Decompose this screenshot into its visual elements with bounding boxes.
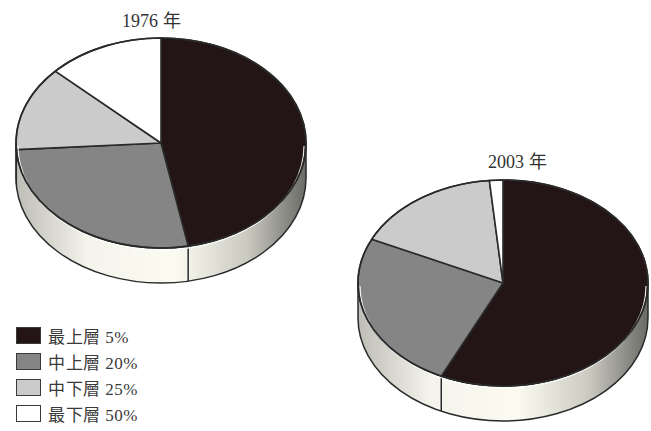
pie-2003	[358, 180, 648, 421]
legend-item-bottom: 最下層 50%	[16, 400, 138, 426]
legend-item-top: 最上層 5%	[16, 322, 138, 348]
legend: 最上層 5% 中上層 20% 中下層 25% 最下層 50%	[16, 322, 138, 426]
legend-swatch-top	[16, 327, 41, 344]
legend-item-upper-middle: 中上層 20%	[16, 348, 138, 374]
legend-label: 最下層 50%	[48, 401, 138, 426]
legend-label: 最上層 5%	[48, 323, 129, 348]
legend-item-lower-middle: 中下層 25%	[16, 374, 138, 400]
legend-label: 中上層 20%	[48, 349, 138, 374]
legend-swatch-bottom	[16, 405, 41, 422]
pie-title-2003: 2003 年	[488, 147, 547, 173]
legend-swatch-lower-middle	[16, 379, 41, 396]
legend-label: 中下層 25%	[48, 375, 138, 400]
pie-title-1976: 1976 年	[122, 6, 181, 32]
legend-swatch-upper-middle	[16, 353, 41, 370]
pie-1976	[16, 38, 306, 283]
